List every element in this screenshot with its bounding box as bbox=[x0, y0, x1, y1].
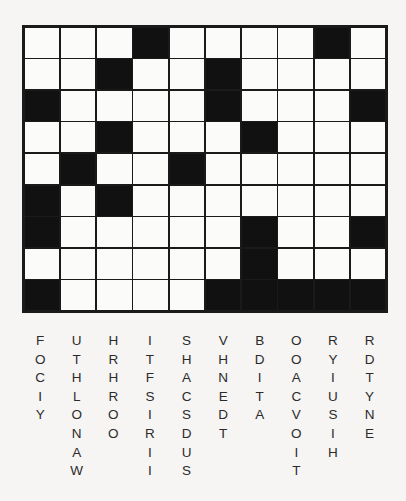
letter-bank-column[interactable]: VHNEDT bbox=[205, 332, 242, 492]
letter-bank-letter: U bbox=[182, 444, 192, 463]
grid-open-cell[interactable] bbox=[351, 186, 386, 216]
grid-open-cell[interactable] bbox=[315, 154, 350, 184]
grid-block-cell bbox=[25, 217, 60, 247]
grid-open-cell[interactable] bbox=[206, 154, 241, 184]
grid-open-cell[interactable] bbox=[170, 186, 205, 216]
grid-open-cell[interactable] bbox=[278, 28, 313, 58]
grid-open-cell[interactable] bbox=[133, 280, 168, 310]
grid-open-cell[interactable] bbox=[206, 28, 241, 58]
letter-bank-letter: Y bbox=[36, 406, 45, 425]
grid-open-cell[interactable] bbox=[278, 154, 313, 184]
grid-open-cell[interactable] bbox=[206, 186, 241, 216]
letter-bank-column[interactable]: UTHLONAW bbox=[59, 332, 96, 492]
letter-bank-column[interactable]: HRHROO bbox=[95, 332, 132, 492]
grid-open-cell[interactable] bbox=[278, 91, 313, 121]
grid-open-cell[interactable] bbox=[315, 217, 350, 247]
grid-open-cell[interactable] bbox=[170, 280, 205, 310]
grid-open-cell[interactable] bbox=[206, 122, 241, 152]
grid-open-cell[interactable] bbox=[278, 59, 313, 89]
letter-bank-letter: H bbox=[72, 369, 82, 388]
grid-open-cell[interactable] bbox=[242, 28, 277, 58]
grid-open-cell[interactable] bbox=[97, 249, 132, 279]
grid-open-cell[interactable] bbox=[206, 217, 241, 247]
grid-open-cell[interactable] bbox=[61, 186, 96, 216]
grid-open-cell[interactable] bbox=[97, 154, 132, 184]
grid-open-cell[interactable] bbox=[351, 154, 386, 184]
letter-bank-letter: D bbox=[255, 351, 265, 370]
grid-open-cell[interactable] bbox=[351, 59, 386, 89]
grid-open-cell[interactable] bbox=[61, 249, 96, 279]
grid-open-cell[interactable] bbox=[133, 122, 168, 152]
grid-open-cell[interactable] bbox=[278, 217, 313, 247]
grid-open-cell[interactable] bbox=[351, 249, 386, 279]
grid-open-cell[interactable] bbox=[97, 280, 132, 310]
letter-bank-letter: I bbox=[294, 444, 298, 463]
grid-open-cell[interactable] bbox=[25, 59, 60, 89]
grid-open-cell[interactable] bbox=[315, 186, 350, 216]
grid-open-cell[interactable] bbox=[133, 186, 168, 216]
letter-bank-letter: R bbox=[328, 332, 338, 351]
grid-open-cell[interactable] bbox=[25, 249, 60, 279]
crossword-grid[interactable] bbox=[22, 25, 388, 313]
grid-block-cell bbox=[242, 249, 277, 279]
letter-bank-letter: N bbox=[365, 406, 375, 425]
letter-bank-column[interactable]: RYIUSIH bbox=[315, 332, 352, 492]
grid-open-cell[interactable] bbox=[242, 154, 277, 184]
letter-bank-letter: T bbox=[365, 369, 374, 388]
grid-open-cell[interactable] bbox=[351, 28, 386, 58]
grid-open-cell[interactable] bbox=[170, 217, 205, 247]
letter-bank-column[interactable]: ITFSIRII bbox=[132, 332, 169, 492]
grid-open-cell[interactable] bbox=[351, 122, 386, 152]
grid-open-cell[interactable] bbox=[278, 122, 313, 152]
grid-open-cell[interactable] bbox=[25, 28, 60, 58]
letter-bank-column[interactable]: BDITA bbox=[242, 332, 279, 492]
grid-open-cell[interactable] bbox=[133, 249, 168, 279]
grid-block-cell bbox=[315, 280, 350, 310]
grid-open-cell[interactable] bbox=[242, 91, 277, 121]
letter-bank-column[interactable]: RDTYNE bbox=[351, 332, 388, 492]
grid-open-cell[interactable] bbox=[61, 217, 96, 247]
letter-bank-letter: S bbox=[182, 406, 191, 425]
grid-open-cell[interactable] bbox=[170, 122, 205, 152]
grid-open-cell[interactable] bbox=[315, 122, 350, 152]
letter-bank-letter: C bbox=[291, 388, 301, 407]
letter-bank-letter: R bbox=[145, 425, 155, 444]
letter-bank-letter: R bbox=[365, 332, 375, 351]
grid-open-cell[interactable] bbox=[133, 217, 168, 247]
grid-open-cell[interactable] bbox=[61, 122, 96, 152]
grid-open-cell[interactable] bbox=[133, 59, 168, 89]
letter-bank-column[interactable]: FOCIY bbox=[22, 332, 59, 492]
grid-open-cell[interactable] bbox=[278, 249, 313, 279]
grid-open-cell[interactable] bbox=[170, 91, 205, 121]
grid-open-cell[interactable] bbox=[315, 249, 350, 279]
letter-bank-column[interactable]: SHACSDUS bbox=[168, 332, 205, 492]
grid-open-cell[interactable] bbox=[97, 28, 132, 58]
grid-open-cell[interactable] bbox=[242, 59, 277, 89]
grid-open-cell[interactable] bbox=[61, 280, 96, 310]
grid-open-cell[interactable] bbox=[242, 186, 277, 216]
grid-block-cell bbox=[133, 28, 168, 58]
grid-open-cell[interactable] bbox=[133, 91, 168, 121]
grid-open-cell[interactable] bbox=[61, 91, 96, 121]
letter-bank-letter: N bbox=[218, 369, 228, 388]
grid-open-cell[interactable] bbox=[278, 186, 313, 216]
letter-bank-letter: I bbox=[258, 369, 262, 388]
grid-open-cell[interactable] bbox=[61, 59, 96, 89]
letter-bank-letter: Y bbox=[365, 388, 374, 407]
grid-open-cell[interactable] bbox=[315, 59, 350, 89]
grid-open-cell[interactable] bbox=[133, 154, 168, 184]
grid-open-cell[interactable] bbox=[25, 154, 60, 184]
grid-open-cell[interactable] bbox=[97, 217, 132, 247]
grid-open-cell[interactable] bbox=[170, 59, 205, 89]
letter-bank-letter: I bbox=[331, 425, 335, 444]
letter-bank-letter: S bbox=[182, 332, 191, 351]
grid-open-cell[interactable] bbox=[315, 91, 350, 121]
grid-open-cell[interactable] bbox=[170, 28, 205, 58]
grid-open-cell[interactable] bbox=[206, 249, 241, 279]
grid-open-cell[interactable] bbox=[97, 91, 132, 121]
letter-bank-letter: T bbox=[146, 351, 155, 370]
letter-bank-column[interactable]: OOACVOIT bbox=[278, 332, 315, 492]
grid-open-cell[interactable] bbox=[25, 122, 60, 152]
grid-open-cell[interactable] bbox=[61, 28, 96, 58]
grid-open-cell[interactable] bbox=[170, 249, 205, 279]
